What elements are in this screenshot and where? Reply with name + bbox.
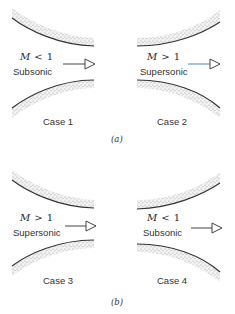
mach-condition: M<1	[146, 212, 180, 223]
upper-wall	[12, 8, 94, 46]
mach-condition: M>1	[146, 51, 180, 62]
flow-regime-label: Subsonic	[143, 227, 182, 238]
flow-arrow	[65, 221, 96, 231]
case-1: M<1 Subsonic Case 1	[12, 8, 95, 127]
panel-a: M<1 Subsonic Case 1 M>1 Supersonic	[12, 8, 220, 144]
upper-wall	[12, 170, 94, 208]
panel-b: M>1 Supersonic Case 3 M<1 Subsonic	[12, 170, 222, 307]
mach-condition: M>1	[19, 212, 53, 223]
case-label: Case 1	[43, 116, 73, 127]
nozzle-flow-diagram: M<1 Subsonic Case 1 M>1 Supersonic	[0, 0, 235, 314]
panel-label-a: (a)	[111, 134, 123, 144]
case-3: M>1 Supersonic Case 3	[12, 170, 96, 286]
upper-wall	[137, 172, 220, 209]
lower-wall	[12, 80, 94, 118]
case-label: Case 2	[157, 116, 187, 127]
flow-arrow	[63, 59, 95, 69]
flow-arrow	[191, 223, 222, 233]
case-2: M>1 Supersonic Case 2	[137, 10, 220, 127]
mach-condition: M<1	[19, 51, 53, 62]
case-4: M<1 Subsonic Case 4	[137, 172, 222, 286]
flow-regime-label: Supersonic	[13, 227, 61, 238]
lower-wall	[137, 80, 220, 118]
case-label: Case 4	[157, 275, 187, 286]
flow-regime-label: Subsonic	[13, 66, 52, 77]
panel-label-b: (b)	[111, 297, 123, 307]
flow-arrow	[188, 59, 220, 69]
upper-wall	[137, 10, 220, 46]
case-label: Case 3	[43, 275, 73, 286]
flow-regime-label: Supersonic	[140, 66, 188, 77]
lower-wall	[12, 240, 94, 276]
